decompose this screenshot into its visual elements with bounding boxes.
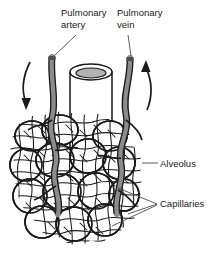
figure-canvas: Pulmonary artery Pulmonary vein Alveolus…: [0, 0, 211, 260]
label-capillaries: Capillaries: [160, 198, 204, 210]
leader-pulmonary-vein: [128, 35, 131, 56]
label-pulmonary-artery-line1: Pulmonary: [61, 7, 106, 19]
vein-outflow-arrow: [141, 60, 151, 110]
label-pulmonary-vein-line1: Pulmonary: [117, 7, 162, 19]
artery-inflow-arrow: [22, 62, 32, 110]
bronchiole-lumen: [76, 68, 106, 78]
label-pulmonary-artery-line2: artery: [61, 19, 106, 31]
label-pulmonary-artery: Pulmonary artery: [61, 7, 106, 30]
label-pulmonary-vein-line2: vein: [117, 19, 162, 31]
label-pulmonary-vein: Pulmonary vein: [117, 7, 162, 30]
label-alveolus: Alveolus: [160, 158, 196, 170]
anatomy-diagram: [0, 0, 211, 260]
leader-pulmonary-artery: [54, 35, 76, 56]
